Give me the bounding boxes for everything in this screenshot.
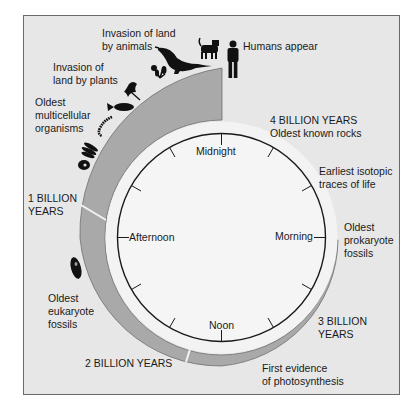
flower-icon	[151, 65, 167, 78]
clock-label-afternoon: Afternoon	[129, 231, 175, 244]
seaweed-icon	[81, 141, 99, 159]
clock-label-midnight: Midnight	[196, 145, 236, 158]
clock-label-noon: Noon	[209, 319, 234, 332]
label-animals: Invasion of land by animals	[102, 27, 176, 53]
label-4-billion-oldest-rocks: 4 BILLION YEARS Oldest known rocks	[270, 114, 362, 140]
label-1-billion: 1 BILLION YEARS	[28, 192, 77, 218]
label-isotopic-traces: Earliest isotopic traces of life	[319, 165, 393, 191]
label-prokaryote-fossils: Oldest prokaryote fossils	[344, 221, 394, 260]
label-humans-appear: Humans appear	[243, 40, 318, 53]
clock-label-morning: Morning	[275, 230, 313, 243]
algae-icon	[78, 160, 90, 170]
label-2-billion: 2 BILLION YEARS	[85, 357, 172, 370]
label-3-billion: 3 BILLION YEARS	[318, 315, 367, 341]
label-multicellular: Oldest multicellular organisms	[35, 96, 90, 135]
label-eukaryote-fossils: Oldest eukaryote fossils	[48, 292, 94, 331]
fish-icon	[107, 103, 134, 111]
worm-icon	[99, 117, 112, 136]
plant-icon	[124, 82, 140, 100]
dog-icon	[199, 38, 219, 59]
label-photosynthesis: First evidence of photosynthesis	[262, 362, 344, 388]
human-icon	[228, 41, 239, 79]
label-plants: Invasion of land by plants	[53, 61, 118, 87]
eukaryote-cell-icon	[68, 256, 83, 280]
